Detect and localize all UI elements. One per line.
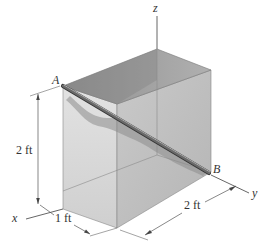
y-axis-label: y <box>252 187 257 199</box>
height-arrow-top <box>36 94 40 100</box>
height-arrow-bottom <box>36 198 40 204</box>
depth-ext <box>90 228 117 236</box>
point-b-label: B <box>213 163 220 175</box>
box-front-face <box>63 86 117 228</box>
point-a-label: A <box>52 74 59 86</box>
width-dimension-label: 2 ft <box>184 199 200 211</box>
height-ext-top <box>30 86 60 96</box>
x-axis-label: x <box>12 212 17 224</box>
width-arrow-right <box>229 186 236 191</box>
z-axis-label: z <box>153 2 158 14</box>
width-arrow-left <box>145 230 152 235</box>
y-axis <box>211 175 249 193</box>
box-rod-figure <box>0 0 267 244</box>
depth-arrow-end <box>84 230 90 235</box>
depth-dimension-label: 1 ft <box>55 212 71 224</box>
diagram-canvas: z A B y x 2 ft 1 ft 2 ft <box>0 0 267 244</box>
width-ext <box>120 230 148 240</box>
height-dimension-label: 2 ft <box>16 144 32 156</box>
